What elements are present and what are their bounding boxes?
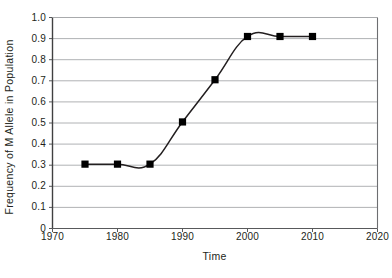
gridlines <box>53 18 378 208</box>
allele-frequency-chart: Frequency of M Allele in Population Time… <box>0 0 392 278</box>
plot-area <box>0 0 392 278</box>
x-tick-marks <box>53 229 378 233</box>
data-line <box>85 32 313 168</box>
